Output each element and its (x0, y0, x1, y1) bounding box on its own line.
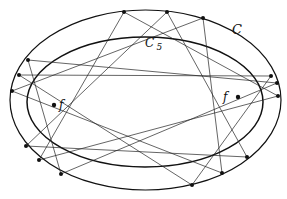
chord (26, 12, 167, 146)
vertex-dot (26, 58, 30, 62)
label-inner-c5-sub: 5 (156, 42, 162, 52)
chord (61, 83, 277, 174)
chord (124, 12, 278, 96)
label-inner-c5-main: C (145, 36, 154, 50)
label-focus-right: f (222, 90, 230, 104)
vertex-dot (276, 94, 280, 98)
foci (52, 95, 240, 107)
chord (39, 12, 124, 160)
chord (39, 96, 278, 160)
vertex-dot (275, 81, 279, 85)
vertex-dot (59, 172, 63, 176)
focus-dot (236, 95, 240, 99)
vertex-dot (220, 171, 224, 175)
label-outer-c: C (232, 22, 242, 37)
focus-dot (52, 103, 56, 107)
vertex-dot (269, 74, 273, 78)
vertex-dot (201, 16, 205, 20)
vertex-dot (165, 10, 169, 14)
label-focus-left: f (58, 98, 66, 112)
vertex-dot (10, 89, 14, 93)
chord (12, 18, 203, 91)
vertex-dot (245, 155, 249, 159)
chord (192, 76, 271, 185)
vertex-dot (122, 10, 126, 14)
vertex-dot (37, 158, 41, 162)
chord (203, 18, 222, 173)
chord (12, 91, 222, 173)
vertex-dot (17, 73, 21, 77)
vertex-dot (190, 183, 194, 187)
chord (26, 146, 247, 157)
poncelet-diagram: C C′5 f f (0, 0, 287, 199)
chord (19, 75, 271, 76)
vertex-dot (24, 144, 28, 148)
